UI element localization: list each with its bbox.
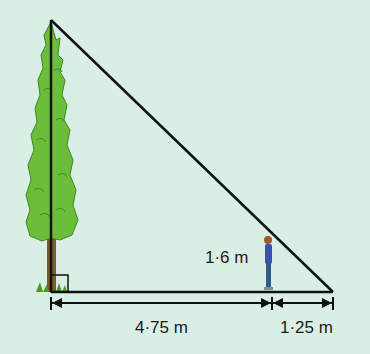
person-icon <box>264 236 273 290</box>
shadow-length-label: 1·25 m <box>280 318 333 338</box>
triangle <box>51 20 333 292</box>
person-height-label: 1·6 m <box>205 248 248 268</box>
diagram-canvas <box>0 0 370 354</box>
dimension-lines <box>51 297 333 310</box>
tree-to-person-distance-label: 4·75 m <box>135 318 188 338</box>
